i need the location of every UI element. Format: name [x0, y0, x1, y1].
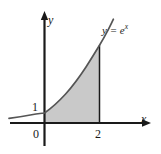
x-tick-label-2: 2 [95, 128, 101, 140]
figure-container: 0 1 2 x y y = ex [0, 0, 161, 154]
shaded-area-under-curve [45, 45, 100, 123]
y-tick-label-1: 1 [32, 101, 38, 113]
y-axis-label: y [48, 14, 53, 26]
figure-canvas [0, 0, 161, 154]
x-axis-label: x [141, 113, 146, 125]
curve-equation-label: y = ex [102, 25, 128, 36]
curve-equation-base: y = e [102, 24, 125, 36]
origin-label: 0 [33, 128, 39, 140]
curve-equation-exponent: x [125, 22, 128, 31]
